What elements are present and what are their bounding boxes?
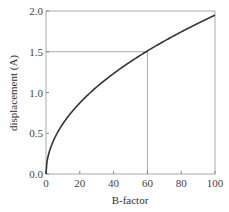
plot-area: 0204060801000.00.51.01.52.0	[29, 5, 224, 189]
x-tick-label: 0	[43, 177, 49, 189]
y-axis-label: displacement (A)	[7, 55, 20, 131]
x-tick-label: 100	[207, 177, 224, 189]
chart: 0204060801000.00.51.01.52.0 B-factor dis…	[0, 0, 229, 212]
y-tick-label: 0.0	[29, 168, 43, 180]
x-tick-label: 60	[142, 177, 154, 189]
x-axis-label: B-factor	[112, 194, 149, 206]
y-tick-label: 2.0	[29, 5, 43, 17]
series-line-displacement	[46, 15, 215, 174]
plot-frame	[46, 11, 215, 174]
x-tick-label: 40	[108, 177, 120, 189]
x-tick-label: 20	[74, 177, 86, 189]
y-tick-label: 0.5	[29, 127, 43, 139]
y-tick-label: 1.0	[29, 87, 43, 99]
y-tick-label: 1.5	[29, 46, 43, 58]
x-tick-label: 80	[176, 177, 188, 189]
